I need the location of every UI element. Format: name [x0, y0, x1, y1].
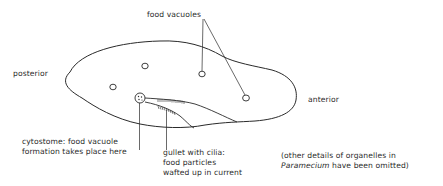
note-paramecium-italic: Paramecium	[281, 161, 330, 170]
label-cytostome-line2: formation takes place here	[22, 147, 127, 157]
paramecium-diagram: food vacuoles posterior anterior cytosto…	[0, 0, 443, 186]
food-vacuoles	[110, 63, 250, 101]
note-line2-rest: have been omitted)	[330, 161, 409, 170]
label-cytostome: cytostome: food vacuole formation takes …	[22, 137, 127, 157]
gullet-upper-wall	[145, 98, 237, 122]
leader-lines	[140, 19, 246, 150]
label-food-vacuoles: food vacuoles	[147, 10, 201, 20]
leader-food-vacuole-2	[204, 19, 245, 95]
label-gullet-line1: gullet with cilia:	[163, 148, 242, 158]
food-vacuole	[199, 71, 205, 77]
food-vacuole	[142, 63, 148, 69]
label-posterior: posterior	[13, 69, 48, 79]
food-vacuole	[110, 84, 116, 90]
leader-food-vacuole-1	[202, 19, 203, 71]
label-gullet-line2: food particles	[163, 158, 242, 168]
cell-body-outline	[66, 41, 297, 128]
label-omitted-note: (other details of organelles in Parameci…	[281, 151, 409, 171]
label-anterior: anterior	[308, 95, 339, 105]
gullet-lower-wall	[145, 102, 194, 128]
label-cytostome-line1: cytostome: food vacuole	[22, 137, 127, 147]
note-line1: (other details of organelles in	[281, 151, 409, 161]
label-gullet: gullet with cilia: food particles wafted…	[163, 148, 242, 178]
label-gullet-line3: wafted up in current	[163, 168, 242, 178]
note-line2: Paramecium have been omitted)	[281, 161, 409, 171]
food-vacuole	[243, 95, 250, 101]
cytostome	[135, 93, 145, 103]
